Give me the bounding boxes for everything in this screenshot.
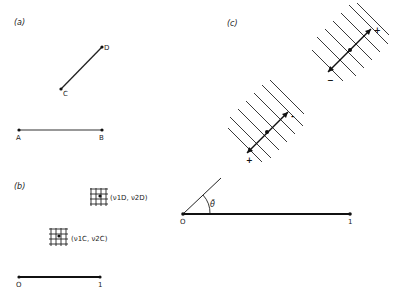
center-lower [265,130,269,134]
axis-c-origin [181,212,185,216]
grid-lower-center [57,234,60,237]
lower-minus-sign: - [291,112,294,121]
hatch-lines-lower [228,80,304,162]
hatch-lines-upper [312,3,389,81]
axis-c-end-label: 1 [348,218,352,226]
point-c-label: C [63,90,68,98]
angle-ray [183,178,221,214]
grid-upper-label: (ν1D, ν2D) [110,194,148,202]
panel-b: (b) (ν1D, ν2D) (ν1C, ν2C) [14,182,148,289]
lower-plus-sign: + [246,156,253,165]
axis-c-end [348,212,352,216]
point-a-label: A [16,134,21,142]
panel-c-label: (c) [227,19,238,28]
grid-upper-center [98,194,101,197]
panel-a: (a) C D A B [14,18,109,142]
segment-cd [61,47,102,89]
panel-a-label: (a) [14,18,25,27]
axis-b-origin-label: O [16,281,22,289]
angle-theta-label: θ̄ [210,199,215,209]
axis-b-end-label: 1 [98,281,102,289]
panel-b-label: (b) [14,182,25,191]
point-d-label: D [104,44,109,52]
angle-arc [203,195,210,214]
point-a [17,128,20,131]
axis-c-origin-label: O [180,218,186,226]
grid-lower-label: (ν1C, ν2C) [71,235,108,243]
center-upper [348,48,352,52]
upper-plus-sign: + [374,26,381,35]
panel-c: (c) + − - + [180,3,389,226]
point-b-label: B [99,134,104,142]
diagram-canvas: (a) C D A B (b) (ν1D, ν2D) [0,0,406,304]
point-b [100,128,103,131]
axis-b-end [98,275,101,278]
axis-b-origin [17,275,20,278]
upper-minus-sign: − [327,76,334,85]
